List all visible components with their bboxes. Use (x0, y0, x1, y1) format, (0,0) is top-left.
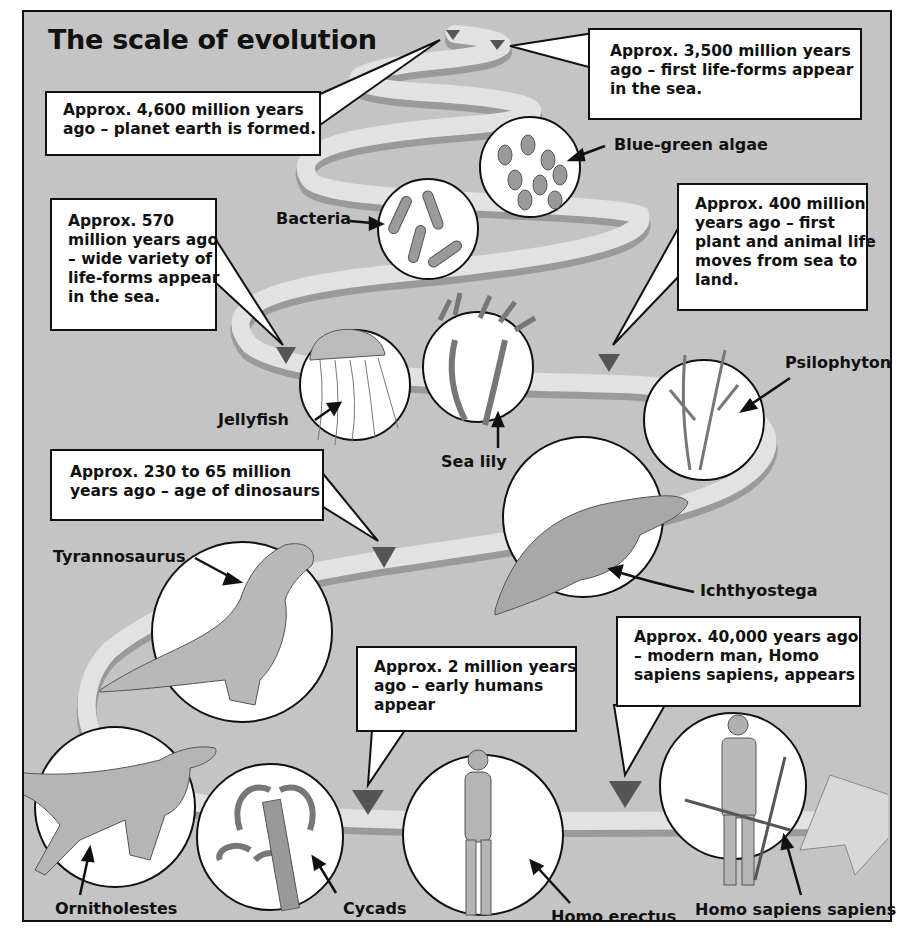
callout-sea-to-land: Approx. 400 million years ago – first pl… (677, 183, 868, 311)
callout-wide-variety: Approx. 570 million years ago – wide var… (50, 198, 217, 331)
label-ichthyostega: Ichthyostega (700, 581, 818, 600)
label-sea-lily: Sea lily (441, 452, 507, 471)
callout-age-of-dinosaurs: Approx. 230 to 65 million years ago – ag… (50, 449, 324, 521)
psilophyton-circle (644, 360, 764, 480)
label-tyrannosaurus: Tyrannosaurus (53, 547, 185, 566)
label-ornitholestes: Ornitholestes (55, 899, 177, 918)
diagram-title: The scale of evolution (48, 24, 377, 55)
callout-modern-man: Approx. 40,000 years ago – modern man, H… (616, 616, 861, 707)
label-homo-erectus: Homo erectus (551, 907, 676, 926)
label-jellyfish: Jellyfish (218, 410, 289, 429)
label-psilophyton: Psilophyton (785, 353, 891, 372)
label-bacteria: Bacteria (276, 209, 351, 228)
callout-earth-formed: Approx. 4,600 million years ago – planet… (45, 91, 321, 156)
label-blue-green-algae: Blue-green algae (614, 135, 768, 154)
label-homo-sapiens-sapiens: Homo sapiens sapiens (695, 900, 896, 919)
callout-early-humans: Approx. 2 million years ago – early huma… (356, 646, 577, 732)
path-arrowhead (800, 775, 905, 875)
label-cycads: Cycads (343, 899, 406, 918)
callout-first-life: Approx. 3,500 million years ago – first … (588, 28, 862, 120)
